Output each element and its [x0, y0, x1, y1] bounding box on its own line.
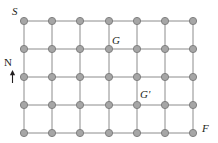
grid-graph-figure: S G G' F N — [0, 0, 218, 143]
grid-node — [48, 17, 55, 24]
grid-node — [133, 73, 140, 80]
finish-node-label: F — [202, 123, 209, 134]
grid-node — [189, 129, 196, 136]
north-letter-label: N — [4, 57, 12, 68]
goal-node-label: G — [112, 35, 120, 46]
grid-node — [105, 17, 112, 24]
grid-node — [189, 101, 196, 108]
grid-node — [48, 73, 55, 80]
goal-prime-node-label: G' — [140, 89, 150, 100]
grid-node — [105, 45, 112, 52]
north-compass-indicator: N — [4, 57, 20, 83]
grid-node — [161, 45, 168, 52]
grid-node — [133, 17, 140, 24]
grid-node — [189, 45, 196, 52]
grid-node — [105, 101, 112, 108]
grid-node — [133, 45, 140, 52]
grid-node — [20, 101, 27, 108]
grid-node — [76, 101, 83, 108]
grid-graph-canvas — [0, 0, 218, 143]
north-arrow-icon — [8, 70, 17, 83]
grid-node — [105, 73, 112, 80]
grid-node — [48, 101, 55, 108]
grid-node — [20, 129, 27, 136]
start-node-label: S — [12, 6, 18, 17]
grid-node — [76, 17, 83, 24]
grid-node — [161, 101, 168, 108]
grid-node — [76, 73, 83, 80]
grid-node — [76, 45, 83, 52]
grid-node — [189, 17, 196, 24]
grid-node — [20, 73, 27, 80]
grid-node — [189, 73, 196, 80]
grid-node — [48, 129, 55, 136]
grid-node — [133, 129, 140, 136]
grid-node — [105, 129, 112, 136]
grid-node — [133, 101, 140, 108]
grid-node — [161, 17, 168, 24]
grid-node — [161, 129, 168, 136]
grid-node — [20, 17, 27, 24]
grid-node — [20, 45, 27, 52]
grid-node — [76, 129, 83, 136]
grid-node — [161, 73, 168, 80]
grid-node — [48, 45, 55, 52]
